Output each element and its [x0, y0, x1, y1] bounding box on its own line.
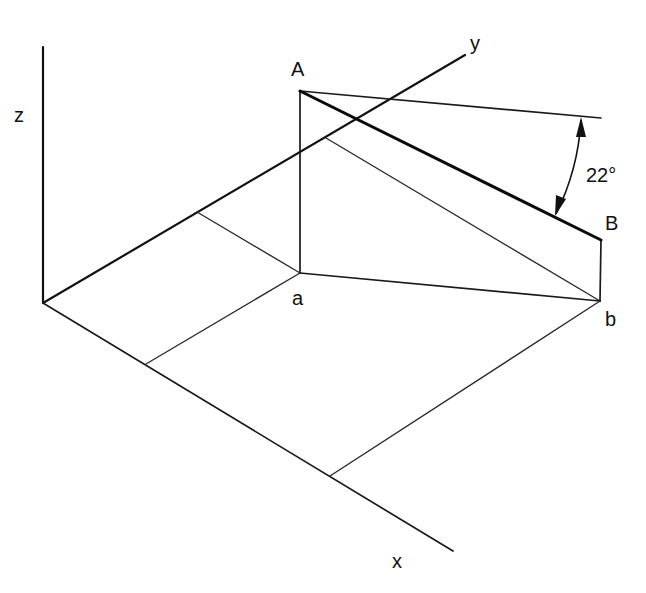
- x-axis: [43, 303, 453, 551]
- b-to-x-axis-projector: [330, 301, 600, 476]
- y-axis: [43, 55, 465, 303]
- point-A-label: A: [291, 58, 305, 80]
- z-axis-label: z: [14, 104, 24, 126]
- y-axis-label: y: [470, 32, 480, 54]
- angle-label: 22°: [586, 164, 616, 186]
- vertical-Bb: [600, 240, 601, 301]
- arc-arrowhead-top-icon: [576, 117, 586, 137]
- a-to-y-axis-projector: [197, 212, 300, 273]
- plan-line-ab: [300, 273, 600, 301]
- x-axis-label: x: [392, 550, 402, 572]
- isometric-projection-diagram: z y x A B a b 22°: [0, 0, 646, 593]
- arc-arrowhead-bottom-icon: [555, 195, 566, 216]
- a-to-x-axis-projector: [146, 273, 300, 364]
- point-B-label: B: [605, 212, 618, 234]
- point-b-label: b: [605, 308, 616, 330]
- point-a-label: a: [292, 287, 304, 309]
